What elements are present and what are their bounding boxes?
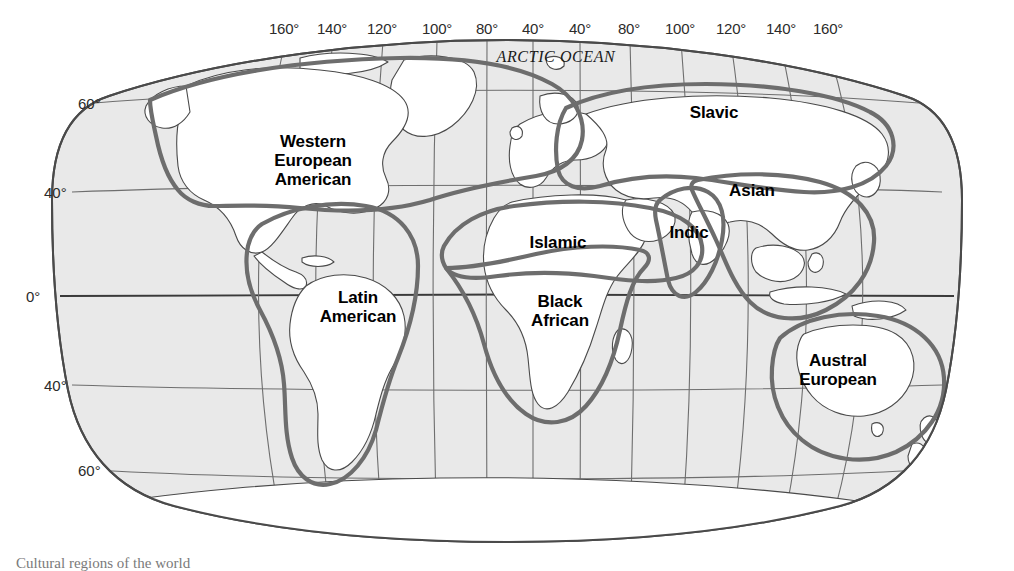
- lat-tick-60s: 60°: [78, 462, 101, 479]
- lat-tick-0: 0°: [26, 288, 40, 305]
- land-tasmania: [872, 423, 884, 437]
- land-british-isles: [510, 126, 522, 139]
- world-cultural-regions-map: 160° 140° 120° 100° 80° 40° 40° 80° 100°…: [0, 0, 1014, 571]
- lat-tick-40s: 40°: [44, 377, 67, 394]
- map-canvas: [0, 0, 1014, 571]
- lat-tick-60n: 60°: [78, 95, 101, 112]
- region-label-western-european-american: Western European American: [274, 132, 352, 189]
- lon-tick-140w: 140°: [317, 20, 347, 37]
- lon-tick-80w: 80°: [476, 20, 498, 37]
- region-label-austral-european: Austral European: [799, 351, 877, 389]
- lon-tick-100w: 100°: [422, 20, 452, 37]
- lon-tick-40e: 40°: [569, 20, 591, 37]
- region-label-indic: Indic: [669, 223, 708, 242]
- region-label-asian: Asian: [729, 181, 775, 200]
- lon-tick-100e: 100°: [665, 20, 695, 37]
- lat-tick-40n: 40°: [44, 184, 67, 201]
- lon-tick-140e: 140°: [766, 20, 796, 37]
- lon-tick-40w: 40°: [522, 20, 544, 37]
- lon-tick-160w: 160°: [269, 20, 299, 37]
- region-label-slavic: Slavic: [690, 103, 739, 122]
- lon-tick-80e: 80°: [618, 20, 640, 37]
- lon-tick-120e: 120°: [716, 20, 746, 37]
- region-label-latin-american: Latin American: [320, 288, 397, 326]
- figure-caption: Cultural regions of the world: [16, 555, 190, 571]
- region-label-black-african: Black African: [531, 292, 589, 330]
- lon-tick-120w: 120°: [367, 20, 397, 37]
- region-label-islamic: Islamic: [530, 233, 587, 252]
- arctic-ocean-label: ARCTIC OCEAN: [497, 48, 616, 66]
- lon-tick-160e: 160°: [813, 20, 843, 37]
